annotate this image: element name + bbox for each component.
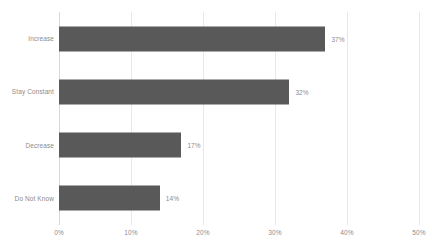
x-axis-tick-label: 50% [412,229,425,236]
y-axis-tick-label: Decrease [0,119,54,172]
x-axis-labels: 0%10%20%30%40%50% [59,229,419,243]
gridline-50 [419,12,420,225]
y-axis-tick-label: Do Not Know [0,172,54,225]
bar-row: 14% [59,172,419,225]
bar[interactable] [59,26,325,51]
bar-value-label: 32% [295,88,308,95]
bar-value-label: 14% [166,195,179,202]
x-axis-tick-label: 10% [124,229,137,236]
bars-layer: 37%32%17%14% [59,12,419,225]
bar-row: 37% [59,12,419,65]
x-axis-tick-label: 20% [196,229,209,236]
bar-row: 32% [59,65,419,118]
bar[interactable] [59,133,181,158]
x-axis-tick-label: 40% [340,229,353,236]
bar-chart: IncreaseStay ConstantDecreaseDo Not Know… [0,0,432,250]
x-axis-tick-label: 0% [54,229,64,236]
x-axis-tick-label: 30% [268,229,281,236]
bar-value-label: 37% [331,35,344,42]
y-axis-tick-label: Stay Constant [0,65,54,118]
bar-row: 17% [59,119,419,172]
bar[interactable] [59,79,289,104]
bar[interactable] [59,186,160,211]
y-axis-labels: IncreaseStay ConstantDecreaseDo Not Know [0,12,54,225]
bar-value-label: 17% [187,142,200,149]
y-axis-tick-label: Increase [0,12,54,65]
